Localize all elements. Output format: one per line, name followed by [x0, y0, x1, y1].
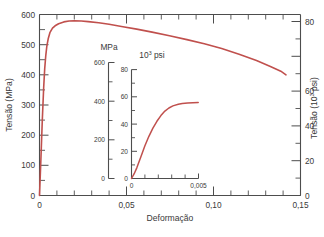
inset-psi-axis	[132, 70, 138, 179]
inset-psi-ticklabels: 0 20 40 60 80	[121, 66, 129, 182]
inset-x-ticklabels: 0 0,005	[130, 182, 207, 189]
main-y-left-ticklabel-400: 400	[21, 70, 35, 80]
main-x-ticks	[40, 187, 301, 196]
main-y-left-axis-title: Tensão (MPa)	[4, 78, 14, 132]
main-plot-frame	[40, 15, 301, 196]
inset-mpa-ticklabel-600: 600	[94, 59, 105, 66]
inset-psi-title: 103 psi	[139, 50, 164, 60]
inset-psi-ticklabel-40: 40	[121, 121, 129, 128]
inset-mpa-title: MPa	[100, 42, 118, 52]
main-y-left-ticklabel-300: 300	[21, 100, 35, 110]
inset-psi-title-base: 10	[139, 50, 149, 60]
svg-text:Tensão (103 psi): Tensão (103 psi)	[309, 77, 319, 139]
inset-psi-ticklabel-0: 0	[124, 175, 128, 182]
main-x-ticklabel-015: 0,15	[292, 200, 309, 210]
inset-mpa-ticklabel-0: 0	[101, 175, 105, 182]
main-y-right-axis-title-tail: psi)	[309, 77, 319, 93]
main-stress-strain-curve	[40, 21, 287, 196]
main-y-right-ticklabel-80: 80	[305, 17, 315, 27]
main-x-ticklabel-005: 0,05	[118, 200, 135, 210]
main-y-left-ticklabel-500: 500	[21, 40, 35, 50]
chart-svg: 0 100 200 300 400 500 600 0 20 40 60 80	[0, 0, 324, 237]
inset-psi-ticklabel-20: 20	[121, 148, 129, 155]
inset-x-axis	[132, 174, 199, 179]
main-y-left-ticklabel-600: 600	[21, 10, 35, 20]
inset-psi-ticklabel-80: 80	[121, 66, 129, 73]
main-x-ticklabels: 0 0,05 0,10 0,15	[37, 200, 309, 210]
main-y-left-ticklabel-200: 200	[21, 130, 35, 140]
inset-mpa-ticklabel-200: 200	[94, 136, 105, 143]
main-y-right-ticks	[292, 22, 301, 196]
stress-strain-chart: 0 100 200 300 400 500 600 0 20 40 60 80	[0, 0, 324, 237]
main-y-left-ticklabel-100: 100	[21, 160, 35, 170]
inset-x-ticklabel-0005: 0,005	[190, 182, 207, 189]
inset-mpa-ticklabel-400: 400	[94, 98, 105, 105]
inset-psi-ticklabel-60: 60	[121, 93, 129, 100]
main-y-right-ticklabel-20: 20	[305, 156, 315, 166]
inset-x-ticklabel-0: 0	[130, 182, 134, 189]
inset-mpa-ticklabels: 0 200 400 600	[94, 59, 105, 182]
main-x-axis-title: Deformação	[147, 213, 194, 223]
main-y-left-ticklabels: 0 100 200 300 400 500 600	[21, 10, 35, 201]
main-y-left-ticklabel-0: 0	[30, 191, 35, 201]
main-x-ticklabel-0: 0	[37, 200, 42, 210]
inset-mpa-axis	[109, 63, 115, 179]
inset-psi-title-tail: psi	[152, 50, 165, 60]
main-y-right-axis-title-base: Tensão (10	[309, 96, 319, 139]
main-y-right-axis-title: Tensão (103 psi)	[309, 77, 319, 139]
inset-elastic-curve	[132, 103, 199, 179]
main-x-ticklabel-010: 0,10	[205, 200, 222, 210]
